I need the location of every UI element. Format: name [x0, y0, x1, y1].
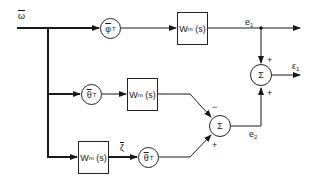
- sigma-symbol-right: Σ: [258, 70, 264, 80]
- wm-mid-main: W: [129, 90, 138, 100]
- theta-mid-sup: T: [93, 92, 97, 98]
- wm-mid-arg: (s): [145, 90, 156, 100]
- theta-symbol-bottom: θ: [144, 153, 149, 163]
- theta-bottom-sup: T: [150, 155, 154, 161]
- wm-bot-main: W: [80, 153, 89, 163]
- signal-e2-label: e2: [249, 129, 257, 142]
- phi-transpose-gain: φT: [100, 18, 121, 39]
- wm-block-bottom: Wm (s): [78, 141, 109, 174]
- wm-top-arg: (s): [195, 24, 206, 34]
- signal-zeta-label: ζ: [120, 143, 124, 153]
- eps1-sub: 1: [296, 66, 299, 72]
- wm-bot-sub: m: [89, 155, 94, 161]
- phi-symbol: φ: [105, 24, 111, 34]
- summing-junction-right: Σ: [250, 64, 272, 86]
- e2-sub: 2: [254, 134, 257, 140]
- wm-block-top: Wm (s): [177, 12, 208, 45]
- wm-top-main: W: [179, 24, 188, 34]
- sign-right-top: +: [267, 56, 272, 65]
- sign-right-bottom: +: [267, 89, 272, 98]
- sign-middle-bottom: +: [212, 141, 217, 150]
- summing-junction-middle: Σ: [209, 115, 231, 137]
- sigma-symbol-middle: Σ: [217, 121, 223, 131]
- phi-transpose-sup: T: [112, 26, 116, 32]
- wm-top-sub: m: [188, 26, 193, 32]
- signal-e1-label: e1: [245, 17, 253, 30]
- theta-transpose-gain-mid: θT: [81, 84, 102, 105]
- wm-mid-sub: m: [138, 92, 143, 98]
- e1-sub: 1: [250, 22, 253, 28]
- signal-eps1-label: ε1: [292, 61, 299, 74]
- wm-bot-arg: (s): [96, 153, 107, 163]
- wm-block-mid: Wm (s): [127, 78, 158, 111]
- theta-symbol-mid: θ: [87, 90, 92, 100]
- input-omega-label: ω: [18, 11, 25, 21]
- sign-middle-top: −: [212, 103, 217, 112]
- theta-transpose-gain-bottom: θT: [138, 147, 159, 168]
